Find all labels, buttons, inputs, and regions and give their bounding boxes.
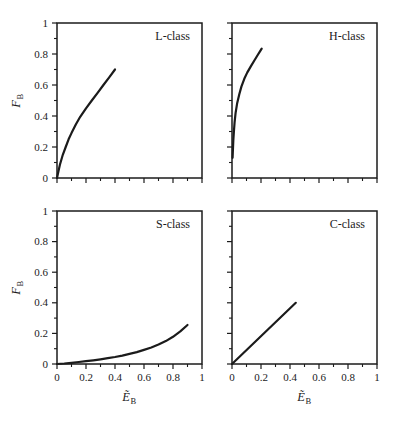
panel-s-class: 000.20.20.40.40.60.60.80.811 (34, 205, 205, 383)
curve-h-class (233, 49, 262, 158)
x-axis-letter: Ẽ (122, 390, 130, 404)
x-tick-label: 0.4 (283, 371, 297, 383)
plots-canvas: 00.20.40.60.81000.20.20.40.40.60.60.80.8… (0, 0, 409, 421)
x-tick-label: 1 (374, 371, 380, 383)
y-tick-label: 1 (43, 17, 49, 29)
panel-label-s-class: S-class (134, 217, 190, 231)
y-axis-label-top: FB (9, 81, 25, 121)
y-tick-label: 0.6 (34, 79, 48, 91)
x-tick-label: 0.6 (312, 371, 326, 383)
x-axis-label-left: ẼB (107, 390, 151, 405)
curve-c-class (232, 303, 296, 364)
y-axis-letter: F (9, 100, 23, 108)
x-tick-label: 0.2 (254, 371, 268, 383)
x-tick-label: 0.6 (137, 371, 151, 383)
y-axis-label-bottom: FB (9, 268, 25, 308)
x-tick-label: 0 (54, 371, 60, 383)
x-axis-label-right: ẼB (282, 390, 326, 405)
x-tick-label: 0 (229, 371, 235, 383)
y-tick-label: 0.6 (34, 266, 48, 278)
x-axis-subscript: B (305, 396, 311, 406)
y-tick-label: 0 (43, 358, 49, 370)
panel-h-class (227, 23, 377, 183)
panel-label-c-class: C-class (309, 217, 365, 231)
y-tick-label: 0.4 (34, 110, 48, 122)
x-tick-label: 0.8 (341, 371, 355, 383)
panel-label-h-class: H-class (309, 29, 365, 43)
x-tick-label: 1 (199, 371, 205, 383)
x-axis-subscript: B (130, 396, 136, 406)
y-tick-label: 0.8 (34, 48, 48, 60)
panel-label-l-class: L-class (134, 29, 190, 43)
y-tick-label: 0.4 (34, 296, 48, 308)
x-tick-label: 0.2 (79, 371, 93, 383)
panel-c-class: 00.20.40.60.81 (227, 211, 380, 383)
curve-l-class (57, 70, 115, 179)
y-tick-label: 0.2 (34, 141, 48, 153)
y-tick-label: 0 (43, 172, 49, 184)
y-tick-label: 1 (43, 205, 49, 217)
y-tick-label: 0.8 (34, 235, 48, 247)
curve-s-class (57, 325, 188, 364)
y-axis-letter: F (9, 287, 23, 295)
x-tick-label: 0.4 (108, 371, 122, 383)
y-axis-subscript: B (15, 94, 25, 100)
x-tick-label: 0.8 (166, 371, 180, 383)
figure: 00.20.40.60.81000.20.20.40.40.60.60.80.8… (0, 0, 409, 421)
y-tick-label: 0.2 (34, 327, 48, 339)
y-axis-subscript: B (15, 281, 25, 287)
x-axis-letter: Ẽ (297, 390, 305, 404)
